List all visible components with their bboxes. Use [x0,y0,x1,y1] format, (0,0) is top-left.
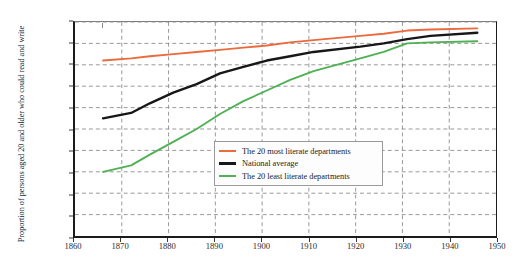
legend-item-most-literate: The 20 most literate departments [219,145,377,157]
series-lines [75,22,496,236]
x-tick-label: 1940 [441,241,458,251]
x-tick-label: 1950 [488,241,505,251]
literacy-line-chart: Proportion of persons aged 20 and older … [0,0,521,268]
legend-color-swatch [219,162,236,165]
x-tick-label: 1930 [394,241,411,251]
plot-area [73,21,497,238]
legend-item-least-literate: The 20 least literate departments [219,170,377,182]
x-tick-mark [497,238,498,242]
y-tick-mark [69,216,73,217]
x-tick-mark [450,238,451,242]
y-axis-label-text: Proportion of persons aged 20 and older … [16,19,27,249]
legend-color-swatch [219,175,236,177]
legend-label: National average [242,159,298,168]
x-tick-label: 1880 [159,241,176,251]
x-tick-mark [167,238,168,242]
x-tick-label: 1870 [112,241,129,251]
y-tick-mark [69,21,73,22]
x-tick-mark [261,238,262,242]
y-tick-mark [69,86,73,87]
x-tick-mark [403,238,404,242]
y-axis-label: Proportion of persons aged 20 and older … [0,0,44,268]
y-tick-mark [69,172,73,173]
y-tick-mark [69,64,73,65]
y-tick-mark [69,107,73,108]
x-tick-mark [73,238,74,242]
x-tick-label: 1860 [64,241,81,251]
y-tick-mark [69,42,73,43]
top-axis-tick [102,23,103,28]
series-line [103,33,477,119]
y-tick-mark [69,151,73,152]
x-tick-mark [120,238,121,242]
x-tick-label: 1910 [300,241,317,251]
x-tick-label: 1890 [206,241,223,251]
y-tick-mark [69,194,73,195]
legend-label: The 20 most literate departments [242,147,351,156]
x-tick-mark [214,238,215,242]
x-tick-label: 1920 [347,241,364,251]
x-tick-mark [309,238,310,242]
legend-color-swatch [219,150,236,152]
x-tick-mark [356,238,357,242]
y-tick-mark [69,129,73,130]
x-tick-label: 1900 [253,241,270,251]
legend-label: The 20 least literate departments [242,172,350,181]
chart-legend: The 20 most literate departmentsNational… [214,141,383,186]
legend-item-national-average: National average [219,158,377,170]
